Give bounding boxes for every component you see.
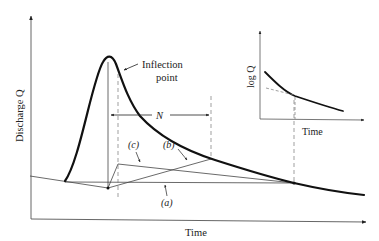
inset-x-axis <box>260 119 364 120</box>
method-b-pointer <box>178 149 187 160</box>
method-a-pointer <box>165 185 167 196</box>
inflection-pointer <box>124 64 138 70</box>
y-axis-label: Discharge Q <box>14 89 25 142</box>
main-x-axis <box>31 219 366 222</box>
method-b-line <box>108 159 211 188</box>
hydrograph-diagram: Inflection point N (c) (b) (a) Discharge… <box>0 0 379 241</box>
recession-point <box>292 181 295 184</box>
inset-y-label: log Q <box>245 65 256 88</box>
method-b-label: (b) <box>163 139 175 151</box>
method-a-line <box>65 182 294 183</box>
dashed-guides <box>118 74 294 200</box>
n-label: N <box>155 110 164 121</box>
method-a-label: (a) <box>161 197 173 209</box>
inflection-label-line2: point <box>156 72 178 83</box>
main-axes <box>31 16 366 222</box>
trough-point <box>107 187 110 190</box>
inflection-label-line1: Inflection <box>142 59 184 70</box>
x-axis-label: Time <box>185 227 207 238</box>
inset-x-label: Time <box>302 126 323 137</box>
inset-plot: log Q Time <box>245 31 364 137</box>
method-c-pointer <box>136 152 140 162</box>
method-c-label: (c) <box>128 139 140 151</box>
inset-log-curve <box>265 72 343 111</box>
